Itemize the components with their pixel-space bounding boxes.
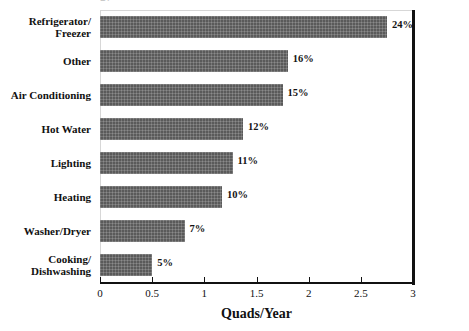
bar <box>100 118 243 140</box>
bar-value-label: 12% <box>248 121 269 133</box>
bars-area: 24% 16% 15% 12% 11% 10% 7% 5% <box>100 10 413 282</box>
bar <box>100 84 283 106</box>
bar-value-label: 16% <box>293 53 314 65</box>
bar-row: 24% <box>100 10 413 44</box>
bar <box>100 50 288 72</box>
bar <box>100 254 152 276</box>
bar-row: 10% <box>100 180 413 214</box>
bar-row: 12% <box>100 112 413 146</box>
x-axis-tick-label: 1.5 <box>250 287 264 299</box>
x-axis-tick-label: 2 <box>306 287 312 299</box>
bar <box>100 220 185 242</box>
category-label: Hot Water <box>0 112 95 146</box>
category-label: Cooking/ Dishwashing <box>0 248 95 282</box>
bar <box>100 152 233 174</box>
bar-value-label: 15% <box>288 87 309 99</box>
bar-value-label: 7% <box>190 223 206 235</box>
category-label: Air Conditioning <box>0 78 95 112</box>
x-axis-tick-mark <box>413 277 414 283</box>
category-label: Lighting <box>0 146 95 180</box>
bar-value-label: 24% <box>392 19 413 31</box>
x-axis-tick-label: 3 <box>410 287 416 299</box>
axis-bottom-spine <box>100 282 415 284</box>
x-axis-tick-mark <box>361 277 362 283</box>
bar-row: 15% <box>100 78 413 112</box>
bar-value-label: 5% <box>157 257 173 269</box>
bar-row: 7% <box>100 214 413 248</box>
category-label: Washer/Dryer <box>0 214 95 248</box>
category-label: Refrigerator/ Freezer <box>0 10 95 44</box>
category-label: Heating <box>0 180 95 214</box>
x-axis-tick-label: 0.5 <box>145 287 159 299</box>
bar <box>100 186 222 208</box>
bar-value-label: 10% <box>227 189 248 201</box>
bar-row: 11% <box>100 146 413 180</box>
category-axis-labels: Refrigerator/ Freezer Other Air Conditio… <box>0 10 95 282</box>
x-axis-title: Quads/Year <box>100 306 413 322</box>
x-axis-tick-label: 2.5 <box>354 287 368 299</box>
bar-chart: gy Refrigerator/ Freezer Other Air Condi… <box>0 0 469 331</box>
bar-row: 16% <box>100 44 413 78</box>
bar-value-label: 11% <box>238 155 258 167</box>
x-axis-tick-mark <box>309 277 310 283</box>
x-axis-tick-mark <box>100 277 101 283</box>
x-axis-tick-label: 0 <box>97 287 103 299</box>
category-label: Other <box>0 44 95 78</box>
chart-title-fragment: gy <box>100 0 220 1</box>
x-axis-tick-mark <box>257 277 258 283</box>
x-axis-tick-mark <box>204 277 205 283</box>
x-axis-tick-label: 1 <box>202 287 208 299</box>
x-axis-tick-mark <box>152 277 153 283</box>
bar <box>100 16 387 38</box>
